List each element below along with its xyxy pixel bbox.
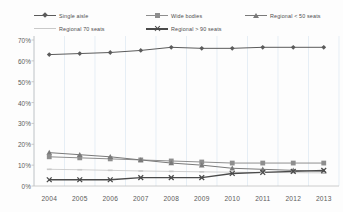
data-point-marker: [230, 161, 235, 166]
chart-legend: Single aisle Wide bodies Regional < 50 s…: [26, 4, 338, 34]
data-point-marker: [260, 45, 265, 50]
data-point-marker: [321, 161, 326, 166]
data-point-marker: [199, 46, 204, 51]
data-point-marker: [47, 154, 52, 159]
legend-label: Regional 70 seats: [59, 25, 105, 33]
legend-marker-diamond-icon: [34, 11, 56, 20]
data-point-marker: [138, 48, 143, 53]
legend-label: Wide bodies: [171, 12, 202, 20]
data-point-marker: [77, 51, 82, 56]
legend-label: Regional > 90 seats: [171, 25, 222, 33]
legend-item-wide-bodies[interactable]: Wide bodies: [146, 9, 202, 22]
data-point-marker: [230, 46, 235, 51]
data-point-marker: [108, 50, 113, 55]
data-point-marker: [291, 161, 296, 166]
chart-canvas: [0, 34, 343, 212]
legend-row-1: Single aisle Wide bodies Regional < 50 s…: [26, 9, 338, 22]
legend-label: Regional < 50 seats: [270, 12, 321, 20]
legend-marker-square-icon: [146, 11, 168, 20]
plot-area: 70%60%50%40%30%20%10%0% 2004200520062007…: [0, 34, 343, 212]
data-point-marker: [169, 45, 174, 50]
legend-item-single-aisle[interactable]: Single aisle: [34, 9, 88, 22]
chart-container: Single aisle Wide bodies Regional < 50 s…: [0, 0, 343, 212]
legend-label: Single aisle: [59, 12, 88, 20]
legend-marker-triangle-icon: [245, 11, 267, 20]
data-point-marker: [260, 161, 265, 166]
data-point-marker: [291, 45, 296, 50]
legend-item-regional-lt-50[interactable]: Regional < 50 seats: [245, 9, 321, 22]
data-point-marker: [321, 45, 326, 50]
data-point-marker: [47, 52, 52, 57]
legend-marker-cross-icon: [146, 24, 168, 33]
legend-marker-dash-icon: [34, 24, 56, 33]
